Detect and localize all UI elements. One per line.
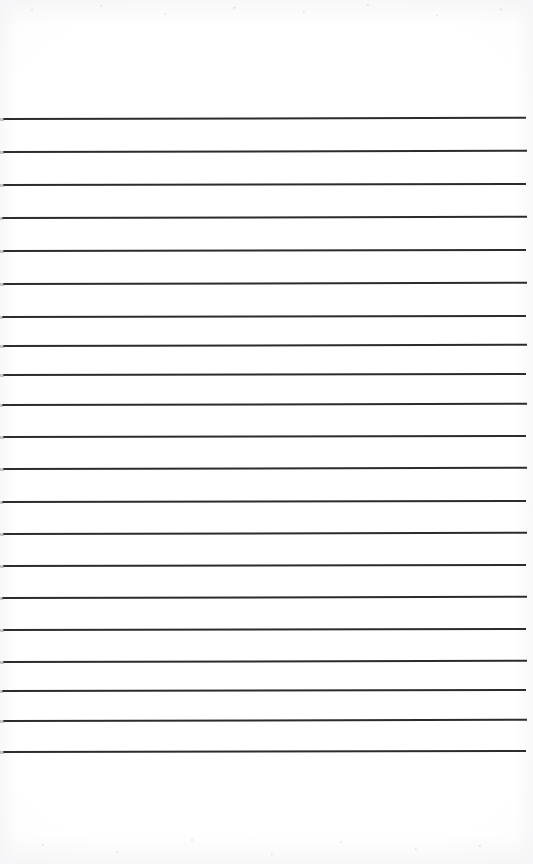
rule-line bbox=[2, 403, 527, 406]
rule-line bbox=[3, 719, 527, 722]
rule-line bbox=[3, 117, 526, 120]
rule-line bbox=[3, 628, 526, 631]
rule-line bbox=[3, 532, 527, 535]
rule-line bbox=[2, 500, 526, 503]
rule-line bbox=[3, 750, 526, 753]
rule-line bbox=[2, 315, 526, 318]
rule-line bbox=[3, 660, 527, 663]
rule-line bbox=[3, 373, 526, 376]
rule-line bbox=[3, 435, 526, 438]
rule-line bbox=[3, 249, 526, 252]
rule-line bbox=[2, 596, 527, 599]
rule-line bbox=[2, 689, 526, 692]
rule-line bbox=[3, 282, 527, 285]
rule-line bbox=[2, 216, 527, 219]
rule-line bbox=[3, 344, 527, 347]
rule-line bbox=[3, 467, 527, 470]
rule-line bbox=[3, 183, 526, 186]
scanned-notebook-page bbox=[0, 0, 533, 864]
ruled-lines-group bbox=[0, 0, 533, 864]
rule-line bbox=[3, 150, 527, 153]
rule-line bbox=[3, 564, 526, 567]
